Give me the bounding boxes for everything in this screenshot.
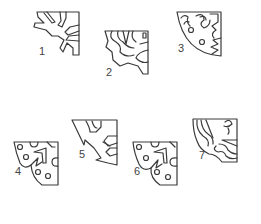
piece-label-4: 4 [15,166,21,177]
piece-label-1: 1 [39,46,45,57]
piece-label-7: 7 [199,150,205,161]
piece-label-2: 2 [106,67,112,78]
figure-canvas: 1 2 3 4 5 6 7 [0,0,261,224]
cutout-diagram [0,0,261,224]
piece-label-5: 5 [79,149,85,160]
piece-label-6: 6 [134,166,140,177]
piece-label-3: 3 [178,43,184,54]
piece-6 [133,142,177,185]
piece-4 [14,142,58,185]
